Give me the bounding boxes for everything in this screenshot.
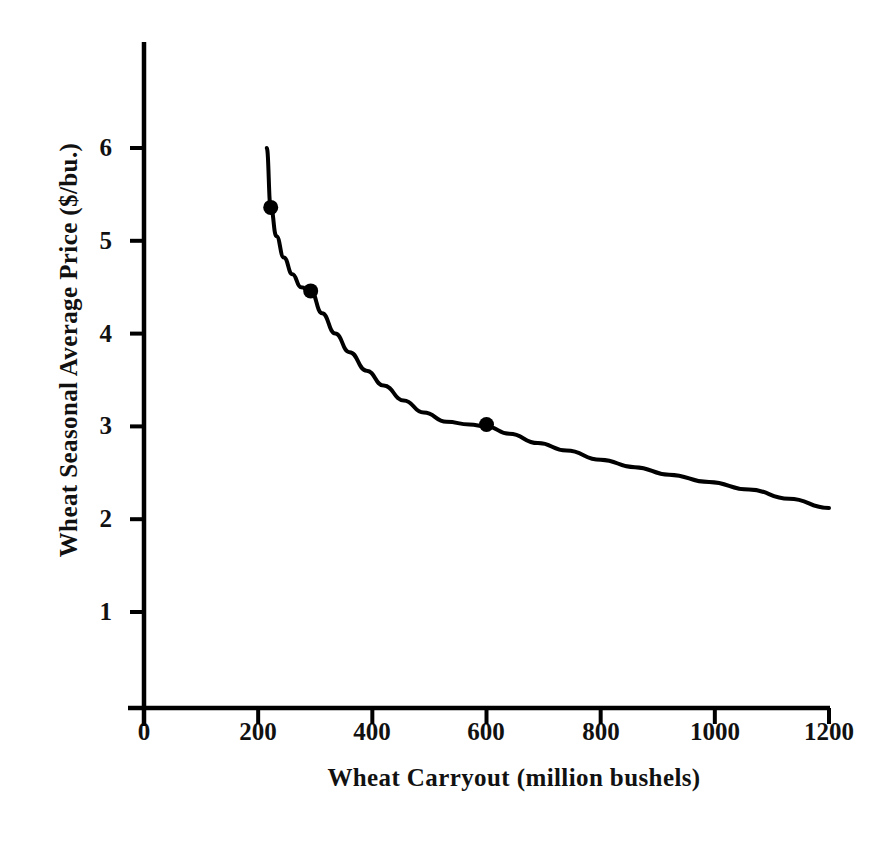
data-point-marker-2: [303, 283, 318, 298]
data-point-marker-3: [479, 417, 494, 432]
data-point-markers: [263, 200, 494, 432]
plot-area: [0, 0, 896, 843]
chart-figure: Wheat Seasonal Average Price ($/bu.) Whe…: [0, 0, 896, 843]
data-point-marker-1: [263, 200, 278, 215]
price-carryout-curve: [267, 148, 829, 508]
axes: [128, 42, 830, 726]
